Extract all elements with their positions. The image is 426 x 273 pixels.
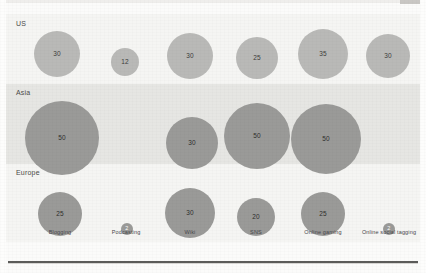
bubble-us-sns[interactable]: 25 xyxy=(236,37,278,79)
bubble-value: 30 xyxy=(53,51,61,58)
bubble-value: 50 xyxy=(58,135,66,142)
bubble-value: 30 xyxy=(186,210,194,217)
category-label-podcasting: Podcasting xyxy=(112,228,141,236)
bubble-value: 50 xyxy=(253,133,261,140)
category-label-sns: SNS xyxy=(250,228,262,236)
footer-rule-shadow xyxy=(8,263,418,264)
bubble-value: 25 xyxy=(56,211,64,218)
category-label-blogging: Blogging xyxy=(49,228,72,236)
bubble-value: 12 xyxy=(121,59,129,66)
bubble-us-wiki[interactable]: 30 xyxy=(167,33,213,79)
page-right-margin xyxy=(420,0,426,273)
bubble-us-online-social-tagging[interactable]: 30 xyxy=(366,34,410,78)
bubble-us-online-gaming[interactable]: 35 xyxy=(298,29,348,79)
category-label-online-gaming: Online gaming xyxy=(304,228,341,236)
category-label-wiki: Wiki xyxy=(185,228,196,236)
bubble-asia-wiki[interactable]: 30 xyxy=(166,117,218,169)
bubble-value: 30 xyxy=(384,53,392,60)
bubble-value: 25 xyxy=(319,211,327,218)
bubble-value: 35 xyxy=(319,51,327,58)
bubble-asia-sns[interactable]: 50 xyxy=(224,103,290,169)
category-label-online-social-tagging: Online social tagging xyxy=(362,228,416,236)
footer-rule xyxy=(8,261,418,263)
bubble-chart: US Asia Europe 3012302535305030505025230… xyxy=(6,14,420,242)
bubble-us-blogging[interactable]: 30 xyxy=(34,31,80,77)
bubble-layer: 301230253530503050502523020252 xyxy=(6,14,420,242)
bubble-value: 25 xyxy=(253,55,261,62)
bubble-value: 30 xyxy=(188,140,196,147)
scanned-page: US Asia Europe 3012302535305030505025230… xyxy=(0,0,426,273)
page-top-edge xyxy=(0,0,426,3)
bubble-asia-online-gaming[interactable]: 50 xyxy=(291,104,361,174)
bubble-value: 50 xyxy=(322,136,330,143)
bubble-value: 30 xyxy=(186,53,194,60)
bubble-value: 20 xyxy=(252,214,260,221)
bubble-us-podcasting[interactable]: 12 xyxy=(111,48,139,76)
bubble-asia-blogging[interactable]: 50 xyxy=(25,101,99,175)
category-axis: BloggingPodcastingWikiSNSOnline gamingOn… xyxy=(6,228,420,242)
